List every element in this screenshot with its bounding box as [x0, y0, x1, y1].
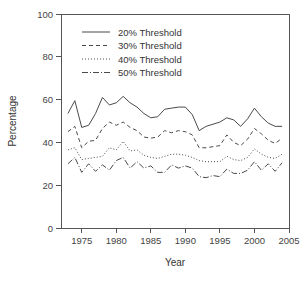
chart-container: 0204060801001975198019851990199520002005…: [0, 0, 307, 289]
y-axis-tick-label: 100: [37, 9, 53, 20]
legend-label-1: 20% Threshold: [118, 27, 182, 38]
data-series-layer: [68, 96, 282, 177]
x-axis-tick-label: 2000: [244, 235, 265, 246]
x-axis-tick-label: 1985: [140, 235, 161, 246]
legend-label-3: 40% Threshold: [118, 54, 182, 65]
x-axis-tick-label: 1990: [175, 235, 196, 246]
y-axis-tick-label: 60: [42, 94, 53, 105]
y-axis-title: Percentage: [7, 95, 18, 147]
y-axis-tick-label: 0: [48, 223, 53, 234]
series-line-4: [68, 157, 282, 177]
x-axis-tick-label: 1975: [71, 235, 92, 246]
x-axis-title: Year: [165, 257, 186, 268]
series-line-3: [68, 141, 282, 161]
legend-label-2: 30% Threshold: [118, 40, 182, 51]
line-chart-svg: 0204060801001975198019851990199520002005…: [0, 0, 307, 289]
series-line-2: [68, 122, 282, 148]
x-axis-tick-label: 2005: [278, 235, 299, 246]
chart-legend: 20% Threshold30% Threshold40% Threshold5…: [82, 27, 182, 79]
y-axis-tick-label: 80: [42, 51, 53, 62]
x-axis-tick-label: 1995: [209, 235, 230, 246]
x-axis-tick-label: 1980: [106, 235, 127, 246]
y-axis-tick-label: 20: [42, 180, 53, 191]
y-axis-tick-label: 40: [42, 137, 53, 148]
series-line-1: [68, 96, 282, 130]
legend-label-4: 50% Threshold: [118, 67, 182, 78]
